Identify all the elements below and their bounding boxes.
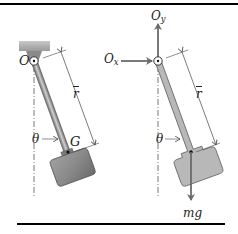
oy-symbol: O <box>151 9 161 23</box>
r-bar-text: r <box>73 88 79 100</box>
right-free-body-diagram <box>121 24 224 200</box>
fbd-r-extension-top <box>166 50 188 58</box>
ox-subscript: x <box>114 57 119 67</box>
fbd-distance-label-r: r <box>196 88 202 100</box>
fbd-pivot-pin-dot <box>157 60 159 62</box>
distance-label-r: r <box>73 88 79 100</box>
ox-symbol: O <box>104 52 114 66</box>
oy-subscript: y <box>161 14 166 24</box>
pendulum-bob <box>49 147 96 187</box>
pendulum-diagram <box>0 0 238 234</box>
oy-label: Oy <box>151 10 166 23</box>
center-of-mass-label-g: G <box>70 135 80 148</box>
pivot-label-o: O <box>19 54 30 67</box>
ox-label: Ox <box>104 53 119 66</box>
fbd-angle-label-theta: θ <box>156 133 163 145</box>
pivot-pin-dot <box>33 60 35 62</box>
fbd-body-outline <box>139 53 224 187</box>
weight-label-mg: mg <box>183 207 202 219</box>
ceiling-support <box>19 41 50 51</box>
center-of-mass-dot <box>66 150 69 153</box>
fbd-r-bar-text: r <box>196 88 202 100</box>
angle-label-theta: θ <box>32 133 39 145</box>
